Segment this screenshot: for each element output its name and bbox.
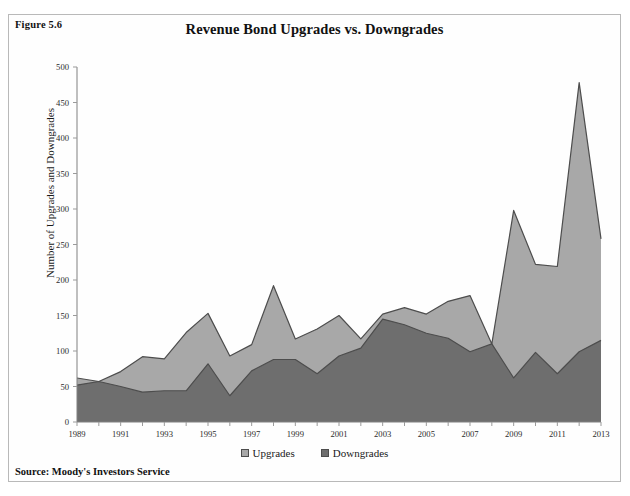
x-tick-label: 2003 [374,429,391,439]
x-tick-label: 2007 [461,429,479,439]
x-tick-label: 2009 [505,429,522,439]
y-tick-label: 250 [56,240,69,250]
legend-item-upgrades[interactable]: Upgrades [241,447,295,459]
x-tick-label: 1993 [156,429,173,439]
y-tick-label: 50 [60,382,69,392]
legend-swatch-downgrades [321,449,329,457]
area-chart: 0501001502002503003504004505001989199119… [9,15,622,483]
x-tick-label: 1997 [243,429,261,439]
y-tick-label: 350 [56,169,69,179]
y-tick-label: 400 [56,133,69,143]
y-tick-label: 0 [65,417,69,427]
x-tick-label: 2013 [592,429,609,439]
y-tick-label: 200 [56,275,69,285]
x-tick-label: 2011 [549,429,566,439]
x-tick-label: 1991 [112,429,129,439]
figure-frame: Figure 5.6 Revenue Bond Upgrades vs. Dow… [8,14,621,482]
x-tick-label: 2005 [418,429,435,439]
chart-legend: Upgrades Downgrades [9,447,620,459]
legend-swatch-upgrades [241,449,249,457]
y-tick-label: 500 [56,62,69,72]
y-tick-label: 100 [56,346,69,356]
y-tick-label: 150 [56,311,69,321]
x-tick-label: 1995 [199,429,216,439]
plot-area: 0501001502002503003504004505001989199119… [9,15,622,483]
x-tick-label: 1989 [68,429,85,439]
x-tick-label: 2001 [330,429,347,439]
source-note: Source: Moody's Investors Service [15,466,170,477]
legend-label-upgrades: Upgrades [253,447,295,459]
y-tick-label: 450 [56,98,69,108]
x-tick-label: 1999 [287,429,304,439]
y-tick-label: 300 [56,204,69,214]
legend-item-downgrades[interactable]: Downgrades [321,447,389,459]
legend-label-downgrades: Downgrades [333,447,389,459]
